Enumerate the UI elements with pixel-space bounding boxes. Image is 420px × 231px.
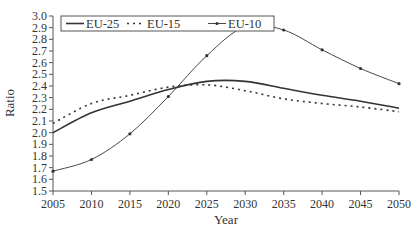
data-point-marker bbox=[359, 67, 362, 70]
series-line-eu-10 bbox=[53, 25, 399, 172]
data-point-marker bbox=[128, 132, 131, 135]
data-point-marker bbox=[397, 82, 400, 85]
data-point-marker bbox=[321, 48, 324, 51]
data-point-marker bbox=[51, 170, 54, 173]
legend-label-eu-10: EU-10 bbox=[228, 17, 261, 31]
data-point-marker bbox=[282, 28, 285, 31]
x-tick-label: 2050 bbox=[387, 197, 411, 211]
x-tick-label: 2035 bbox=[272, 197, 296, 211]
line-chart: 1.51.61.71.81.92.02.12.22.32.42.52.62.72… bbox=[0, 0, 420, 231]
x-tick-label: 2045 bbox=[349, 197, 373, 211]
series-line-eu-15 bbox=[53, 85, 399, 124]
x-tick-label: 2030 bbox=[233, 197, 257, 211]
x-tick-label: 2025 bbox=[195, 197, 219, 211]
y-axis-label: Ratio bbox=[2, 89, 17, 117]
plot-area bbox=[51, 25, 400, 173]
data-point-marker bbox=[205, 54, 208, 57]
data-point-marker bbox=[167, 95, 170, 98]
x-tick-label: 2010 bbox=[79, 197, 103, 211]
legend: EU-25EU-15EU-10 bbox=[61, 16, 274, 31]
x-axis-label: Year bbox=[214, 212, 239, 227]
series-line-eu-25 bbox=[53, 80, 399, 132]
data-point-marker bbox=[90, 158, 93, 161]
x-tick-label: 2040 bbox=[310, 197, 334, 211]
y-tick-label: 3.0 bbox=[32, 9, 47, 23]
y-axis: 1.51.61.71.81.92.02.12.22.32.42.52.62.72… bbox=[32, 9, 53, 198]
x-tick-label: 2005 bbox=[41, 197, 65, 211]
legend-label-eu-25: EU-25 bbox=[86, 17, 119, 31]
x-tick-label: 2015 bbox=[118, 197, 142, 211]
legend-label-eu-15: EU-15 bbox=[147, 17, 180, 31]
x-axis: 2005201020152020202520302035204020452050 bbox=[41, 191, 411, 211]
x-tick-label: 2020 bbox=[156, 197, 180, 211]
legend-marker bbox=[215, 22, 218, 25]
